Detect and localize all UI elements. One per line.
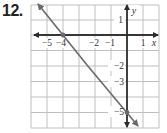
grid	[31, 5, 159, 128]
x-tick-label: −4	[56, 38, 66, 48]
y-tick-label: 1	[118, 15, 123, 25]
x-tick-label: 1	[141, 38, 146, 48]
x-axis-label: x	[151, 37, 157, 48]
point-x-intercept	[61, 33, 66, 38]
x-tick-label: −2	[89, 38, 99, 48]
y-axis-label: y	[131, 5, 137, 16]
x-tick-label: −1	[105, 38, 115, 48]
y-tick-label: −2	[114, 61, 124, 71]
point-y-intercept	[125, 110, 130, 115]
y-tick-label: −3	[114, 77, 124, 87]
x-tick-label: −5	[42, 38, 52, 48]
coordinate-graph: −5 −4 −2 −1 1 x 1 −2 −3 −5 y	[0, 0, 167, 133]
y-tick-label: −5	[114, 107, 124, 117]
